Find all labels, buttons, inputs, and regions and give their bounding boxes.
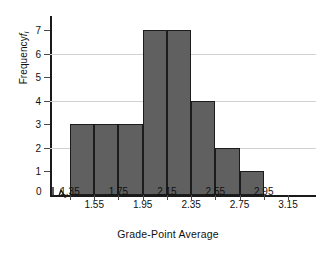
y-tick-mark (44, 101, 50, 102)
x-tick-label: 2.75 (230, 199, 249, 210)
y-axis-label-subscript: i (23, 32, 30, 34)
histogram-bar (94, 124, 118, 195)
y-tick-mark (44, 77, 50, 78)
origin-label: 0 (36, 186, 42, 197)
x-tick-label: 2.55 (206, 186, 225, 197)
x-tick-label: 1.35 (60, 186, 79, 197)
y-tick-mark (44, 171, 50, 172)
y-tick-mark (44, 148, 50, 149)
y-tick-label: 3 (35, 119, 41, 130)
x-tick-label: 1.75 (109, 186, 128, 197)
y-axis-label-symbol: f (18, 33, 29, 36)
y-tick-label: 1 (35, 166, 41, 177)
y-tick-label: 4 (35, 95, 41, 106)
x-tick-label: 3.15 (278, 199, 297, 210)
y-tick-mark (44, 54, 50, 55)
y-tick-label: 6 (35, 48, 41, 59)
y-axis-label: Frequencyfi (18, 0, 30, 118)
y-tick-label: 5 (35, 72, 41, 83)
histogram-bar (191, 101, 215, 195)
x-tick-label: 1.55 (84, 199, 103, 210)
histogram-bar (143, 30, 167, 195)
x-tick-label: 2.35 (181, 199, 200, 210)
y-tick-mark (44, 30, 50, 31)
plot-area: 1234567 (50, 16, 316, 196)
histogram-bar (118, 124, 142, 195)
y-tick-label: 7 (35, 25, 41, 36)
histogram-bar (70, 124, 94, 195)
y-axis-line (50, 16, 52, 196)
histogram-figure: Frequencyfi 0 1234567 1.351.551.751.952.… (0, 0, 336, 255)
histogram-bar (167, 30, 191, 195)
x-tick-label: 1.95 (133, 199, 152, 210)
x-axis-line (50, 195, 316, 197)
x-tick-label: 2.95 (254, 186, 273, 197)
y-tick-mark (44, 124, 50, 125)
y-tick-label: 2 (35, 142, 41, 153)
y-axis-label-text: Frequency (18, 36, 29, 84)
x-axis-label: Grade-Point Average (0, 228, 336, 240)
x-tick-label: 2.15 (157, 186, 176, 197)
